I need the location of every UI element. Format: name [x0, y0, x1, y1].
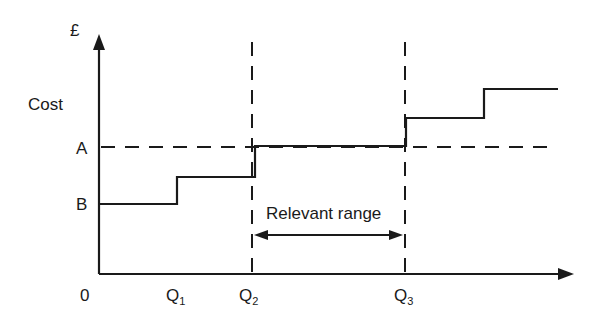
- arrow-left-icon: [254, 230, 268, 240]
- origin-label: 0: [80, 287, 89, 304]
- currency-label: £: [70, 22, 79, 39]
- tick-label-q2: Q2: [239, 287, 258, 307]
- cost-axis-label: Cost: [28, 96, 63, 113]
- step-cost-diagram: £ Cost A B 0 Q1 Q2 Q3 Relevant range: [0, 0, 596, 324]
- relevant-range-label: Relevant range: [266, 205, 381, 222]
- y-axis: [93, 34, 105, 274]
- tick-label-b: B: [76, 196, 87, 213]
- arrow-right-icon: [389, 230, 403, 240]
- x-axis: [99, 268, 574, 280]
- relevant-range-arrow: [254, 230, 403, 240]
- diagram-canvas: [0, 0, 596, 324]
- x-axis-arrow-icon: [558, 268, 574, 280]
- tick-label-q3: Q3: [394, 287, 413, 307]
- tick-label-a: A: [76, 140, 87, 157]
- y-axis-arrow-icon: [93, 34, 105, 50]
- tick-label-q1: Q1: [166, 287, 185, 307]
